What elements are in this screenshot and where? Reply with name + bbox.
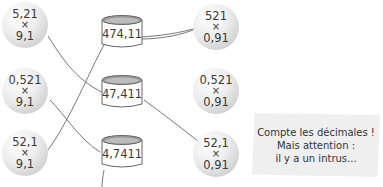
ball-bottom: 9,1 (16, 158, 34, 170)
ball-bottom: 9,1 (16, 30, 34, 42)
left-ball-2[interactable]: 0,521 × 9,1 (2, 68, 48, 114)
ball-bottom: 0,91 (203, 159, 229, 171)
note-line-3: il y a un intrus... (275, 152, 356, 165)
left-ball-1[interactable]: 5,21 × 9,1 (2, 2, 48, 48)
right-ball-1[interactable]: 521 × 0,91 (193, 4, 239, 50)
ball-bottom: 0,91 (203, 96, 229, 108)
left-ball-3[interactable]: 52,1 × 9,1 (2, 130, 48, 176)
can-2[interactable]: 47,411 (100, 74, 144, 110)
ball-bottom: 0,91 (203, 32, 229, 44)
can-value: 474,11 (100, 27, 144, 41)
right-ball-2[interactable]: 0,521 × 0,91 (193, 68, 239, 114)
can-value: 4,7411 (100, 147, 144, 161)
note-line-2: Mais attention : (277, 139, 355, 152)
can-1[interactable]: 474,11 (100, 14, 144, 50)
ball-bottom: 9,1 (16, 96, 34, 108)
right-ball-3[interactable]: 52,1 × 0,91 (193, 131, 239, 177)
hint-note: Compte les décimales ! Mais attention : … (252, 113, 380, 177)
can-3[interactable]: 4,7411 (100, 134, 144, 170)
note-line-1: Compte les décimales ! (257, 126, 375, 139)
can-value: 47,411 (100, 87, 144, 101)
